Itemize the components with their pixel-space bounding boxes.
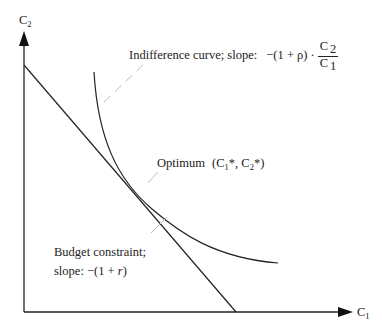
- indifference-curve-label: Indifference curve; slope: −(1 + ρ) ·C2C…: [129, 40, 338, 73]
- budget-constraint-label: Budget constraint; slope: −(1 + r): [54, 246, 146, 277]
- x-axis-label: C1: [357, 306, 370, 321]
- budget-slope-prefix: slope: −(1 +: [54, 264, 118, 278]
- y-axis-arrowhead: [19, 31, 29, 46]
- optimum-label: Optimum (C1*, C2*): [157, 157, 264, 172]
- budget-leader-line: [151, 217, 167, 233]
- budget-slope-suffix: ): [123, 264, 127, 278]
- optimum-leader-line: [148, 172, 158, 183]
- budget-label-line2: slope: −(1 + r): [54, 265, 146, 278]
- optimum-label-text: Optimum: [157, 156, 205, 170]
- y-axis-label-sub: 2: [27, 19, 31, 29]
- fraction-denominator: C: [319, 56, 329, 70]
- fraction-numerator-sub: 2: [329, 42, 337, 56]
- budget-label-line1: Budget constraint;: [54, 246, 146, 259]
- optimum-coord-close: *): [254, 156, 264, 170]
- optimum-coord-open: (C: [212, 156, 225, 170]
- x-axis-arrowhead: [338, 307, 353, 317]
- indifference-label-text: Indifference curve; slope:: [129, 48, 257, 62]
- fraction-denominator-sub: 1: [329, 59, 337, 73]
- indifference-slope-fraction: C2C1: [318, 40, 339, 73]
- indifference-slope-formula: −(1 + ρ) ·: [266, 48, 314, 62]
- y-axis-label: C2: [19, 14, 32, 29]
- optimum-coord-mid: *, C: [229, 156, 250, 170]
- x-axis-label-sub: 1: [365, 311, 369, 321]
- fraction-numerator: C: [319, 39, 329, 53]
